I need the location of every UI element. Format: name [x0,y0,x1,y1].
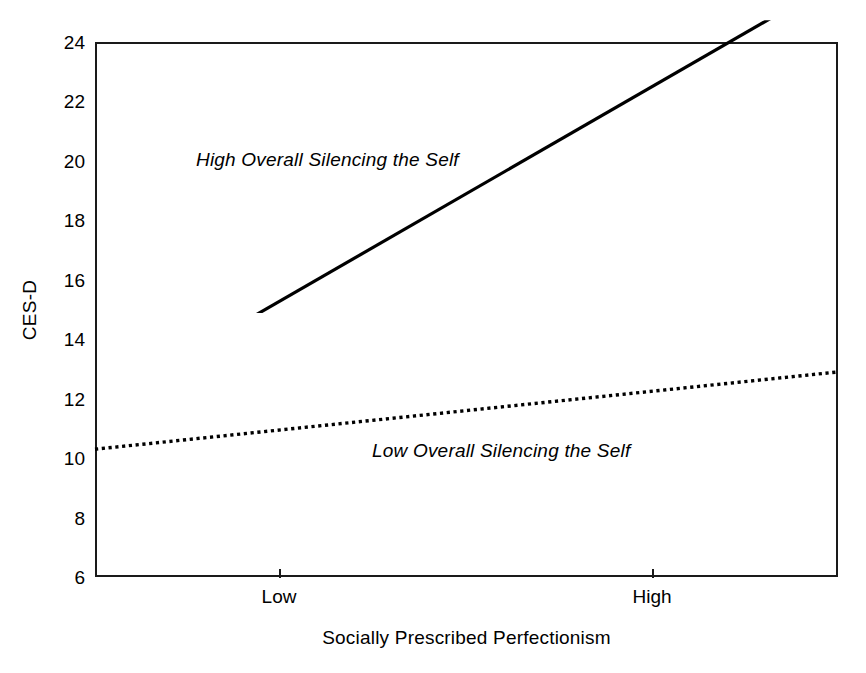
x-axis-title: Socially Prescribed Perfectionism [95,627,838,649]
chart-figure: CES-D 24 22 20 18 16 14 12 10 8 6 Low Hi… [0,0,866,673]
x-tick-label-high: High [592,586,712,608]
y-tick-label: 18 [25,211,85,230]
x-tick-mark [652,569,654,578]
annotation-high-overall-silencing: High Overall Silencing the Self [196,149,459,171]
y-tick-label: 16 [25,271,85,290]
annotation-low-overall-silencing: Low Overall Silencing the Self [372,440,630,462]
plot-area [95,42,838,577]
y-tick-label: 24 [25,33,85,52]
y-tick-label: 8 [25,509,85,528]
x-tick-label-low: Low [219,586,339,608]
y-tick-label: 6 [25,568,85,587]
y-tick-label: 14 [25,330,85,349]
y-tick-label: 10 [25,449,85,468]
y-tick-label: 20 [25,152,85,171]
x-tick-mark [279,569,281,578]
y-axis-tick-labels: 24 22 20 18 16 14 12 10 8 6 [13,0,85,673]
y-tick-label: 12 [25,390,85,409]
y-tick-label: 22 [25,92,85,111]
